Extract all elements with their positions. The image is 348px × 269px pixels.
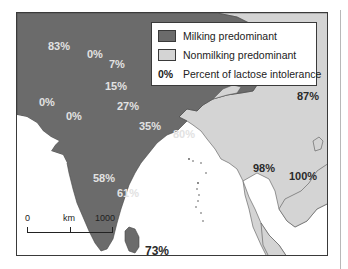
label-58: 58% xyxy=(93,173,115,184)
legend-item-nonmilking: Nonmilking predominant xyxy=(158,47,296,63)
label-73: 73% xyxy=(145,245,169,256)
scale-bar: 0 km 1000 xyxy=(27,213,137,243)
label-0-c: 0% xyxy=(66,111,82,122)
label-15: 15% xyxy=(105,81,127,92)
label-80: 80% xyxy=(173,129,195,140)
label-83: 83% xyxy=(48,41,70,52)
label-35: 35% xyxy=(139,121,161,132)
scale-label-1000: 1000 xyxy=(95,213,115,223)
legend-label-percent: Percent of lactose intolerance xyxy=(183,68,321,80)
milking-swatch xyxy=(158,30,176,42)
label-98: 98% xyxy=(253,163,275,174)
label-61: 61% xyxy=(117,188,139,199)
scale-tick-end xyxy=(112,227,113,233)
legend-percent-key: 0% xyxy=(158,68,176,80)
legend-label-milking: Milking predominant xyxy=(183,30,277,42)
label-7: 7% xyxy=(109,59,125,70)
scale-tick-mid xyxy=(70,227,71,233)
label-87: 87% xyxy=(297,91,319,102)
legend-item-percent: 0% Percent of lactose intolerance xyxy=(158,66,321,82)
label-0-a: 0% xyxy=(87,49,103,60)
page-divider-line xyxy=(340,10,341,269)
nonmilking-swatch xyxy=(158,49,176,61)
scale-tick-start xyxy=(27,227,28,233)
scale-label-km: km xyxy=(63,213,75,223)
map-frame: 83% 0% 7% 15% 0% 0% 27% 35% 80% 87% 58% … xyxy=(16,12,328,256)
map-legend: Milking predominant Nonmilking predomina… xyxy=(151,22,317,86)
label-100: 100% xyxy=(289,171,317,182)
label-27: 27% xyxy=(117,101,139,112)
scale-label-0: 0 xyxy=(25,213,30,223)
label-0-b: 0% xyxy=(39,97,55,108)
legend-item-milking: Milking predominant xyxy=(158,28,277,44)
legend-label-nonmilking: Nonmilking predominant xyxy=(183,49,296,61)
